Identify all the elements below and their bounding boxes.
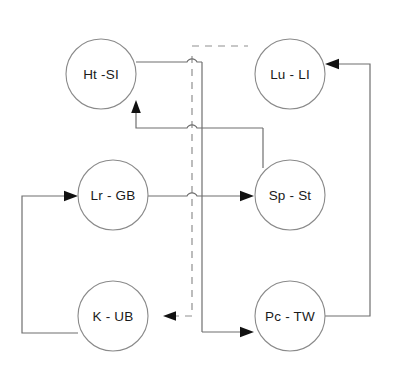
edge-pc-tw-to-lu-li <box>325 64 370 316</box>
node-pc-tw[interactable]: Pc - TW <box>255 281 325 351</box>
edge-k-ub-to-lr-gb <box>22 196 78 333</box>
diagram-canvas: Ht -SI Lu - LI Lr - GB Sp - St K - UB Pc… <box>0 0 393 388</box>
node-k-ub[interactable]: K - UB <box>78 281 148 351</box>
node-label-lr-gb: Lr - GB <box>91 188 136 203</box>
node-sp-st[interactable]: Sp - St <box>255 160 325 230</box>
node-lu-li[interactable]: Lu - LI <box>255 39 325 109</box>
node-label-ht-si: Ht -SI <box>83 67 119 82</box>
arrowhead-lu-li <box>325 59 339 69</box>
node-ht-si[interactable]: Ht -SI <box>66 39 136 109</box>
edge-sp-st-to-ht-si <box>136 113 263 128</box>
node-lr-gb[interactable]: Lr - GB <box>78 160 148 230</box>
arrowhead-sp-st <box>240 191 254 201</box>
arrowhead-lr-gb <box>64 191 78 201</box>
arrowhead-pc-tw <box>240 327 254 337</box>
arrowhead-ht-si <box>131 100 141 113</box>
organ-cycle-diagram: Ht -SI Lu - LI Lr - GB Sp - St K - UB Pc… <box>0 0 393 388</box>
node-label-lu-li: Lu - LI <box>270 67 310 82</box>
node-label-pc-tw: Pc - TW <box>265 309 315 324</box>
node-label-k-ub: K - UB <box>93 309 134 324</box>
node-label-sp-st: Sp - St <box>269 188 312 203</box>
arrowhead-k-ub <box>163 311 176 321</box>
edge-lr-gb-to-sp-st <box>148 193 240 196</box>
